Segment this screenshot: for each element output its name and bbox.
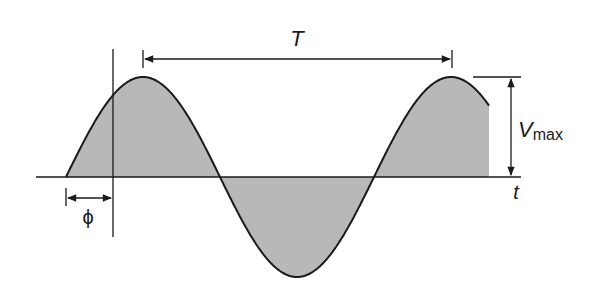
period-label: T (290, 26, 305, 51)
time-axis-label: t (513, 181, 520, 203)
waveform-diagram: T Vmax t ϕ (0, 0, 605, 306)
phase-label: ϕ (82, 206, 93, 228)
vmax-label: Vmax (518, 117, 563, 143)
waveform-svg: T Vmax t ϕ (0, 0, 605, 306)
